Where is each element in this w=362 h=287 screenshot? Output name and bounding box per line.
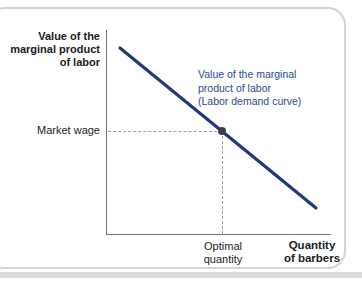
market-wage-label: Market wage [6,124,100,137]
y-axis-label: Value of the marginal product of labor [6,30,100,69]
x-axis-line [106,234,331,235]
market-wage-guide-line [108,131,222,132]
optimal-quantity-label: Optimal quantity [188,240,258,266]
optimal-quantity-guide-line [222,131,223,234]
y-axis-line [106,30,107,235]
demand-curve-annotation: Value of the marginal product of labor (… [198,68,350,109]
x-axis-label: Quantity of barbers [268,239,356,265]
figure-container: Value of the marginal product of labor M… [0,0,362,287]
plot-area: Value of the marginal product of labor M… [0,0,362,287]
equilibrium-point-marker [218,127,226,135]
